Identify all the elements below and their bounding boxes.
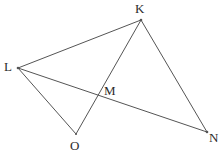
vertex-dot-L [17,67,20,70]
vertex-dot-N [206,131,209,134]
segment-KN [141,20,207,132]
vertex-label-O: O [70,139,79,152]
segment-LK [18,20,141,68]
vertex-dot-O [75,133,77,135]
vertex-label-N: N [209,131,218,144]
segment-KO [76,20,141,134]
segments-group [18,20,207,134]
vertex-label-L: L [4,60,12,73]
geometry-figure: K L M O N [0,0,224,166]
vertex-dot-K [140,19,143,22]
vertex-label-M: M [104,84,116,97]
vertex-label-K: K [135,2,144,15]
